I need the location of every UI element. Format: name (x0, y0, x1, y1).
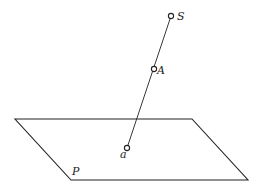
point-s-marker (168, 13, 173, 18)
label-a-upper: A (156, 64, 165, 77)
plane-p (15, 119, 248, 180)
label-plane-p: P (71, 165, 80, 178)
point-a-marker (151, 66, 156, 71)
label-s: S (177, 10, 185, 23)
projection-diagram: S A a P (0, 0, 259, 191)
label-a-lower: a (120, 148, 127, 161)
projection-line (127, 16, 171, 148)
